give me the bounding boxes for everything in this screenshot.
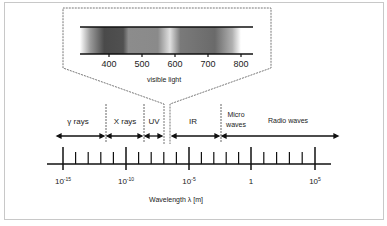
region-label-ir: IR [189, 117, 197, 126]
visible-light-caption: visible light [147, 76, 181, 83]
region-label-gamma: γ rays [67, 117, 88, 126]
spectrum-diagram [0, 0, 387, 226]
region-label-waves: waves [226, 121, 246, 128]
region-label-radio: Radio waves [268, 117, 308, 124]
visible-tick-label: 800 [233, 59, 248, 69]
visible-tick-label: 400 [101, 59, 116, 69]
region-label-micro: Micro [227, 111, 244, 118]
region-label-uv: UV [148, 117, 159, 126]
visible-spectrum-bar [80, 27, 253, 57]
axis-tick-label: 10-15 [55, 176, 71, 186]
axis-tick-label: 105 [309, 176, 321, 186]
visible-tick-label: 500 [134, 59, 149, 69]
axis-tick-label: 1 [249, 176, 253, 186]
visible-tick-label: 600 [167, 59, 182, 69]
region-arrows [57, 134, 338, 138]
region-label-xray: X rays [114, 117, 137, 126]
axis-tick-label: 10-10 [118, 176, 134, 186]
visible-tick-label: 700 [200, 59, 215, 69]
axis-tick-label: 10-5 [182, 176, 195, 186]
axis-title: Wavelength λ [m] [149, 196, 203, 203]
wavelength-axis [47, 147, 331, 170]
